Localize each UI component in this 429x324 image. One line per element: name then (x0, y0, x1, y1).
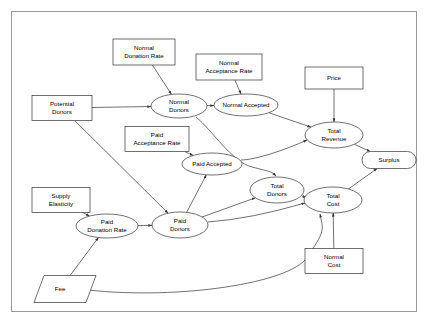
node-potential-donors[interactable]: PotentialDonors (32, 96, 92, 121)
diagram-canvas: NormalDonation RateNormalAcceptance Rate… (0, 0, 429, 324)
node-label-paid-accepted: Paid Accepted (192, 160, 232, 167)
edge-normal_accepted-to-total_revenue (269, 113, 311, 127)
edge-normal_donation_rate-to-normal_donors (152, 65, 171, 94)
node-surplus[interactable]: Surplus (362, 152, 416, 169)
edge-paid_donors-to-total_cost (208, 203, 305, 222)
node-layer: NormalDonation RateNormalAcceptance Rate… (32, 39, 416, 303)
node-label-normal-donors: NormalDonors (169, 98, 189, 112)
node-label-fee: Fee (55, 285, 66, 292)
edge-paid_donors-to-total_donors (202, 198, 255, 217)
edge-paid_acceptance_rate-to-paid_accepted (185, 152, 194, 156)
edge-normal_cost-to-total_cost (333, 213, 334, 249)
node-paid-acceptance-rate[interactable]: PaidAcceptance Rate (125, 127, 189, 152)
node-supply-elasticity[interactable]: SupplyElasticity (32, 188, 90, 213)
edge-normal_acceptance_rate-to-normal_accepted (235, 80, 241, 94)
node-label-surplus: Surplus (379, 156, 400, 163)
node-normal-acceptance-rate[interactable]: NormalAcceptance Rate (196, 54, 262, 80)
node-normal-donation-rate[interactable]: NormalDonation Rate (113, 39, 175, 65)
node-price[interactable]: Price (305, 67, 363, 89)
edge-potential_donors-to-normal_donors (92, 107, 151, 108)
node-normal-accepted[interactable]: Normal Accepted (214, 94, 278, 116)
causal-loop-diagram: NormalDonation RateNormalAcceptance Rate… (0, 0, 429, 324)
node-fee[interactable]: Fee (34, 276, 96, 303)
node-normal-donors[interactable]: NormalDonors (151, 94, 207, 118)
node-paid-donors[interactable]: PaidDonors (152, 212, 208, 238)
node-normal-cost[interactable]: NormalCost (305, 249, 363, 274)
edge-paid_accepted-to-total_revenue (241, 140, 307, 160)
edge-paid_donors-to-paid_accepted (187, 175, 207, 213)
node-total-revenue[interactable]: TotalRevenue (305, 122, 363, 148)
node-label-potential-donors: PotentialDonors (50, 100, 74, 114)
edge-total_cost-to-surplus (348, 169, 377, 190)
node-label-price: Price (327, 74, 342, 81)
node-total-donors[interactable]: TotalDonors (250, 177, 304, 203)
node-total-cost[interactable]: TotalCost (304, 187, 362, 213)
edge-supply_elasticity-to-paid_donation_rate (83, 213, 89, 217)
node-paid-accepted[interactable]: Paid Accepted (182, 153, 242, 175)
node-label-supply-elasticity: SupplyElasticity (49, 192, 74, 206)
node-paid-donation-rate[interactable]: PaidDonation Rate (76, 214, 138, 238)
node-label-total-cost: TotalCost (326, 192, 339, 206)
node-label-normal-accepted: Normal Accepted (222, 101, 270, 108)
edge-total_revenue-to-surplus (354, 144, 370, 151)
edge-fee-to-paid_donation_rate (70, 238, 98, 276)
